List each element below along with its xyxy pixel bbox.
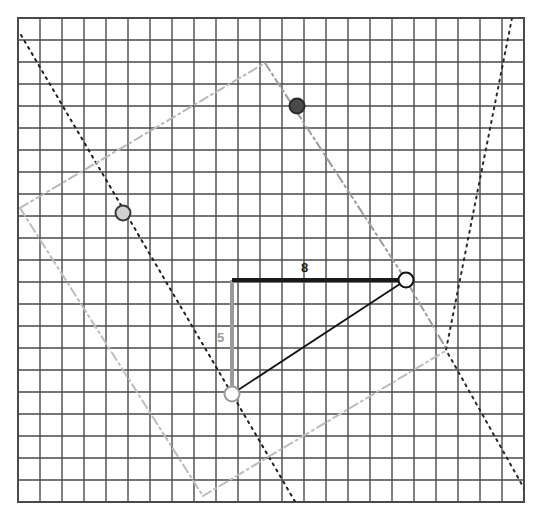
dashdot-line-bottom-right	[203, 350, 447, 496]
geometry-figure	[0, 0, 546, 519]
height-length-label: 5	[217, 331, 224, 344]
dashdot-line-ascending	[20, 63, 265, 208]
base-length-label: 8	[301, 261, 308, 274]
point-marker-dark[interactable]	[290, 99, 305, 114]
markers-group	[116, 99, 414, 402]
grid-group	[18, 18, 524, 502]
triangle-hypotenuse	[232, 280, 406, 394]
dashdot-line-descending-left	[20, 208, 203, 496]
diagram-canvas: 8 5	[0, 0, 546, 519]
triangle-group	[232, 280, 406, 394]
vertex-marker-upper-right[interactable]	[399, 273, 414, 288]
point-marker-light[interactable]	[116, 206, 131, 221]
vertex-marker-lower-left[interactable]	[225, 387, 240, 402]
